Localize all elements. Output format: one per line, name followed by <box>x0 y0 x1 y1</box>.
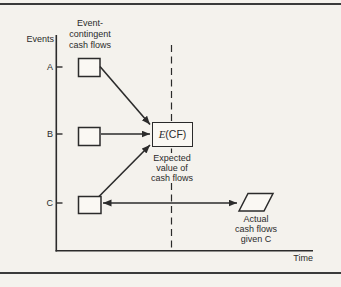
event-contingent-caption: Event- contingent cash flows <box>62 18 118 51</box>
expected-caption-line2: value of <box>144 163 200 173</box>
expected-caption-line1: Expected <box>144 153 200 163</box>
cash-flow-box-a <box>79 59 101 77</box>
tick-label-c: C <box>39 198 53 208</box>
x-axis-label: Time <box>278 253 313 263</box>
actual-caption-line1: Actual <box>228 214 284 224</box>
header-caption-line2: contingent <box>62 29 118 40</box>
arrow-c-to-ecf <box>99 145 150 197</box>
y-axis-label: Events <box>25 34 54 44</box>
actual-cash-flows-caption: Actual cash flows given C <box>228 214 284 244</box>
expected-value-caption: Expected value of cash flows <box>144 153 200 183</box>
expected-caption-line3: cash flows <box>144 173 200 183</box>
ecf-args: (CF) <box>165 128 186 140</box>
actual-caption-line2: cash flows <box>228 224 284 234</box>
arrow-a-to-ecf <box>100 67 150 125</box>
cash-flow-box-c <box>79 197 102 214</box>
tick-label-b: B <box>39 129 53 139</box>
header-caption-line1: Event- <box>62 18 118 29</box>
tick-label-a: A <box>39 62 53 72</box>
actual-caption-line3: given C <box>228 234 284 244</box>
cash-flow-box-b <box>79 128 101 146</box>
actual-cash-flows-parallelogram <box>239 194 273 212</box>
header-caption-line3: cash flows <box>62 40 118 51</box>
figure-page: Events Event- contingent cash flows A B … <box>0 0 341 287</box>
ecf-node-box: E(CF) <box>152 122 193 147</box>
